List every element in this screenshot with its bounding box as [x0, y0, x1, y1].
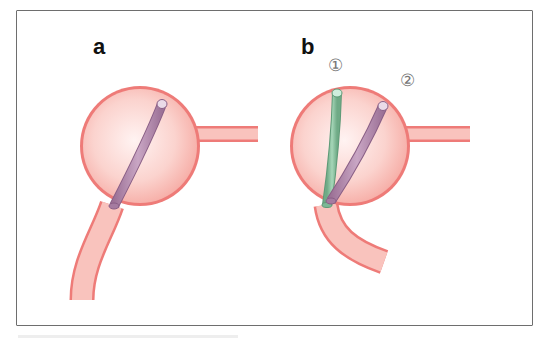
faint-caption	[18, 335, 238, 338]
catheter-1-label: ①	[328, 55, 343, 76]
aneurysm-diagram	[0, 0, 550, 341]
panel-a	[80, 86, 258, 300]
catheter-2-label: ②	[400, 70, 415, 91]
panel-label-a: a	[93, 34, 105, 60]
panel-b	[290, 86, 470, 262]
panel-label-b: b	[301, 34, 314, 60]
